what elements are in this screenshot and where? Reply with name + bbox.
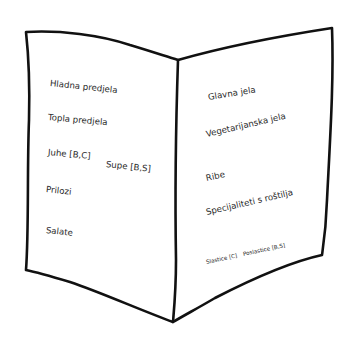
- menu-booklet-outline: [0, 0, 353, 340]
- right-page-outline: [173, 28, 333, 322]
- left-page-outline: [26, 32, 178, 322]
